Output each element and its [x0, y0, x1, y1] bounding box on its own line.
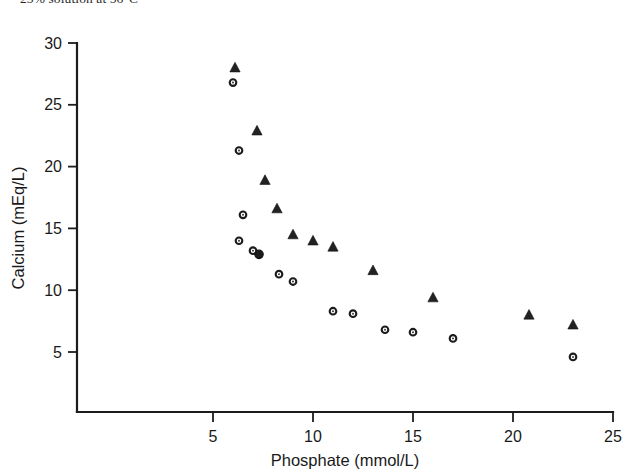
data-point-filled-circle [255, 250, 263, 258]
data-point-open-circle-center [352, 313, 354, 315]
data-point-open-circle-center [278, 273, 280, 275]
data-point-open-circle-center [332, 310, 334, 312]
y-axis-ticks [68, 43, 77, 352]
data-point-open-circle-center [292, 281, 294, 283]
figure-container: 25% solution at 56°C 51015202530 5101520… [0, 0, 631, 476]
data-point-open-circle-center [572, 356, 574, 358]
x-axis-ticks [213, 412, 613, 422]
data-point-triangle [568, 319, 578, 329]
data-point-triangle [288, 229, 298, 239]
y-tick-label: 10 [44, 282, 62, 299]
data-point-triangle [260, 175, 270, 185]
y-tick-label: 15 [44, 220, 62, 237]
data-series-layer [230, 62, 578, 360]
y-tick-label: 30 [44, 35, 62, 52]
x-axis-title: Phosphate (mmol/L) [271, 451, 420, 469]
data-point-triangle [308, 235, 318, 245]
data-point-triangle [368, 265, 378, 275]
data-point-open-circle-center [384, 329, 386, 331]
data-point-open-circle-center [412, 331, 414, 333]
data-point-open-circle-center [452, 337, 454, 339]
x-tick-label: 25 [604, 428, 622, 445]
data-point-triangle [524, 310, 534, 320]
y-tick-label: 25 [44, 96, 62, 113]
data-point-open-circle-center [232, 82, 234, 84]
x-tick-label: 10 [304, 428, 322, 445]
x-axis-tick-labels: 510152025 [209, 428, 622, 445]
y-axis-tick-labels: 51015202530 [44, 35, 62, 361]
data-point-triangle [428, 292, 438, 302]
data-point-open-circle-center [242, 214, 244, 216]
y-tick-label: 5 [53, 344, 62, 361]
data-point-triangle [230, 62, 240, 72]
y-axis-title: Calcium (mEq/L) [9, 167, 27, 290]
x-tick-label: 5 [209, 428, 218, 445]
data-point-triangle [252, 125, 262, 135]
y-tick-label: 20 [44, 158, 62, 175]
series-filled-circles [255, 250, 263, 258]
scatter-plot: 51015202530 510152025 Phosphate (mmol/L)… [0, 0, 631, 476]
data-point-triangle [272, 203, 282, 213]
data-point-triangle [328, 242, 338, 252]
data-point-open-circle-center [252, 250, 254, 252]
x-tick-label: 15 [404, 428, 422, 445]
data-point-open-circle-center [238, 240, 240, 242]
data-point-open-circle-center [238, 150, 240, 152]
x-tick-label: 20 [504, 428, 522, 445]
series-triangles [230, 62, 578, 329]
